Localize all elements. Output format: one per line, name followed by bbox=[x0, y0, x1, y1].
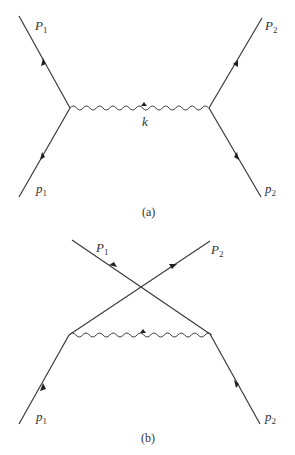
diagram-b: P1 P2 p1 p2 (b) bbox=[19, 240, 276, 445]
caption-b: (b) bbox=[141, 431, 155, 445]
arrow-icon bbox=[140, 329, 146, 333]
label-P2: P2 bbox=[210, 242, 223, 259]
fermion-line-p1-in bbox=[19, 335, 69, 424]
label-p2: p2 bbox=[264, 409, 276, 426]
fermion-line-P2-out bbox=[69, 241, 210, 335]
diagram-a: P1 P2 p1 p2 k (a) bbox=[19, 16, 277, 219]
fermion-line-p2-in bbox=[210, 334, 260, 424]
fermion-line-p2-in bbox=[209, 108, 261, 197]
arrow-icon bbox=[141, 102, 147, 106]
arrow-icon bbox=[41, 58, 46, 66]
label-P1: P1 bbox=[34, 18, 47, 35]
fermion-line-p1-in bbox=[19, 108, 70, 197]
label-P2: P2 bbox=[264, 18, 277, 35]
label-k: k bbox=[142, 114, 148, 129]
label-p2: p2 bbox=[264, 181, 276, 198]
label-p1: p1 bbox=[35, 181, 47, 198]
photon-propagator bbox=[69, 333, 212, 337]
caption-a: (a) bbox=[142, 205, 155, 219]
label-p1: p1 bbox=[35, 409, 47, 426]
feynman-diagrams: P1 P2 p1 p2 k (a) P1 P2 p1 p2 (b) bbox=[0, 0, 295, 455]
photon-propagator bbox=[70, 106, 209, 110]
label-P1: P1 bbox=[95, 240, 108, 257]
